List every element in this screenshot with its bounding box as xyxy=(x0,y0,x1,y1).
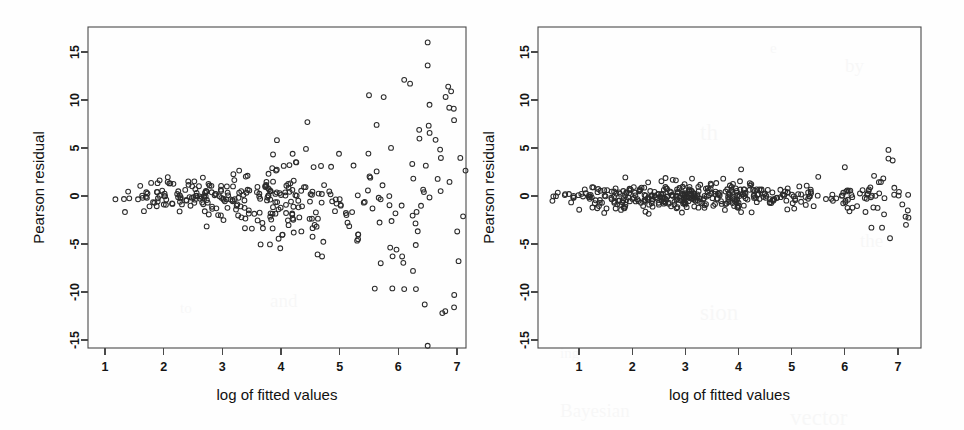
data-point xyxy=(333,209,338,214)
y-tick-label: -5 xyxy=(518,238,532,249)
data-point xyxy=(869,225,874,230)
data-point xyxy=(394,247,399,252)
data-point xyxy=(308,199,313,204)
data-point xyxy=(816,174,821,179)
data-point xyxy=(319,164,324,169)
data-point xyxy=(438,147,443,152)
data-point xyxy=(452,305,457,310)
data-point xyxy=(797,184,802,189)
data-point xyxy=(413,243,418,248)
data-point xyxy=(337,151,342,156)
data-point xyxy=(351,163,356,168)
data-point xyxy=(374,169,379,174)
data-point xyxy=(411,268,416,273)
data-point xyxy=(261,226,266,231)
data-point xyxy=(659,179,664,184)
data-point xyxy=(399,203,404,208)
data-point xyxy=(393,211,398,216)
data-point xyxy=(900,202,905,207)
y-tick-label: -10 xyxy=(518,283,532,301)
data-point xyxy=(417,127,422,132)
data-point xyxy=(824,197,829,202)
data-point xyxy=(366,151,371,156)
data-point xyxy=(414,209,419,214)
data-point xyxy=(410,213,415,218)
data-point xyxy=(438,156,443,161)
data-point xyxy=(604,206,609,211)
x-tick-label: 4 xyxy=(735,360,742,374)
data-point xyxy=(886,148,891,153)
data-point xyxy=(381,95,386,100)
y-axis-title: Pearson residual xyxy=(482,131,497,244)
data-point xyxy=(413,221,418,226)
data-point xyxy=(892,185,897,190)
data-point xyxy=(449,89,454,94)
data-point xyxy=(127,196,132,201)
data-point xyxy=(113,197,118,202)
y-tick-label: 15 xyxy=(68,45,82,59)
data-point xyxy=(126,189,131,194)
y-axis-title: Pearson residual xyxy=(30,131,47,244)
data-point xyxy=(258,242,263,247)
data-point xyxy=(296,198,301,203)
data-point xyxy=(204,224,209,229)
data-point xyxy=(872,173,877,178)
data-point xyxy=(271,205,276,210)
data-point xyxy=(427,131,432,136)
data-point-group xyxy=(113,40,468,348)
data-point xyxy=(741,203,746,208)
data-point xyxy=(390,254,395,259)
data-point xyxy=(858,191,863,196)
data-point xyxy=(154,204,159,209)
data-point xyxy=(646,180,651,185)
data-point xyxy=(799,192,804,197)
data-point xyxy=(291,178,296,183)
data-point xyxy=(721,176,726,181)
data-point xyxy=(278,246,283,251)
data-point xyxy=(389,146,394,151)
data-point xyxy=(451,106,456,111)
data-point xyxy=(811,204,816,209)
data-point xyxy=(147,204,152,209)
data-point xyxy=(690,176,695,181)
data-point xyxy=(792,206,797,211)
data-point xyxy=(255,218,260,223)
data-point xyxy=(316,216,321,221)
data-point xyxy=(136,197,141,202)
data-point xyxy=(304,147,309,152)
scatter-plot-left[interactable]: 1234567-15-10-5051015log of fitted value… xyxy=(0,0,482,430)
data-point xyxy=(224,184,229,189)
data-point xyxy=(447,105,452,110)
y-tick-label: 10 xyxy=(518,93,532,107)
x-axis-title: log of fitted values xyxy=(669,386,790,403)
data-point xyxy=(200,175,205,180)
data-point xyxy=(257,210,262,215)
data-point xyxy=(590,205,595,210)
data-point xyxy=(905,208,910,213)
data-point xyxy=(415,229,420,234)
data-point xyxy=(842,165,847,170)
data-point xyxy=(252,211,257,216)
data-point xyxy=(242,198,247,203)
scatter-plot-right[interactable]: 1234567-15-10-5051015log of fitted value… xyxy=(482,0,964,430)
data-point xyxy=(427,195,432,200)
data-point xyxy=(275,138,280,143)
data-point xyxy=(815,193,820,198)
data-point xyxy=(435,177,440,182)
poisson-residuals-panel: 1234567-15-10-5051015log of fitted value… xyxy=(0,0,482,430)
x-tick-label: 7 xyxy=(454,360,461,374)
data-point xyxy=(387,203,392,208)
data-point xyxy=(366,188,371,193)
data-point xyxy=(452,293,457,298)
data-point xyxy=(270,226,275,231)
quasipoisson-residuals-panel: 1234567-15-10-5051015log of fitted value… xyxy=(482,0,964,430)
y-tick-label: 15 xyxy=(518,45,532,59)
data-point xyxy=(255,185,260,190)
data-point xyxy=(803,203,808,208)
data-point xyxy=(860,188,865,193)
data-point xyxy=(402,77,407,82)
data-point xyxy=(387,194,392,199)
data-point xyxy=(906,192,911,197)
y-tick-label: -5 xyxy=(68,238,82,249)
x-tick-label: 4 xyxy=(278,360,285,374)
